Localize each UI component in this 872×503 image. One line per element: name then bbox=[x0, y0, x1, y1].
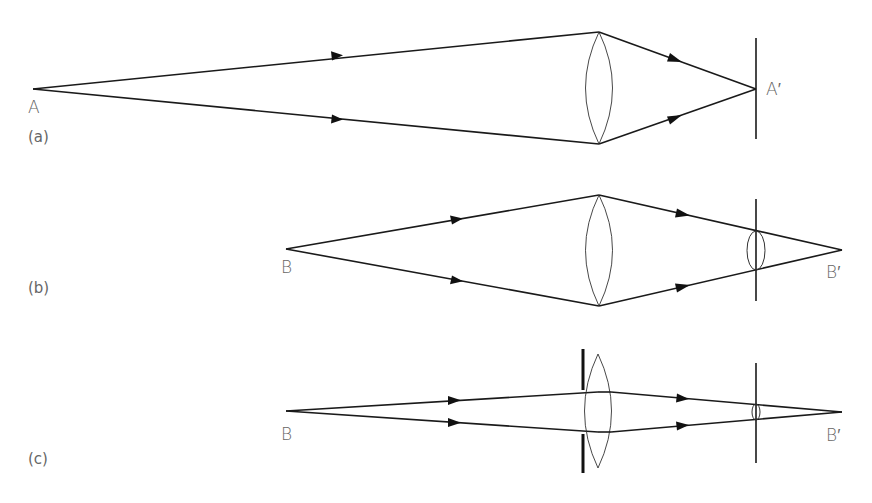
panel-label-a: (a) bbox=[28, 128, 49, 146]
converging-lens-c bbox=[585, 354, 612, 468]
ray-b-upper-refracted bbox=[599, 195, 842, 250]
panel-label-b: (b) bbox=[28, 279, 49, 297]
arrow-icon bbox=[675, 284, 690, 293]
converging-lens-b bbox=[586, 195, 613, 306]
panel-c: B B′ (c) bbox=[28, 349, 842, 473]
ray-c-upper-refracted bbox=[611, 392, 842, 412]
arrow-icon bbox=[667, 115, 682, 125]
label-image-A-prime: A′ bbox=[766, 79, 781, 99]
ray-b-lower-refracted bbox=[599, 250, 842, 306]
ray-a-lower-incoming bbox=[33, 89, 599, 144]
label-object-B: B bbox=[281, 257, 292, 277]
panel-b: B B′ (b) bbox=[28, 195, 842, 306]
label-object-B-c: B bbox=[281, 424, 292, 444]
ray-a-upper-incoming bbox=[33, 32, 599, 89]
arrow-icon bbox=[450, 276, 463, 285]
arrow-icon bbox=[331, 115, 343, 124]
depth-of-field-diagram: A A′ (a) B B′ (b) B B′ bbox=[0, 0, 872, 503]
label-object-A: A bbox=[28, 97, 40, 117]
arrow-icon bbox=[675, 209, 690, 218]
ray-c-lower-incoming bbox=[286, 411, 598, 432]
arrow-icon bbox=[448, 418, 461, 427]
panel-label-c: (c) bbox=[28, 450, 48, 468]
panel-a: A A′ (a) bbox=[28, 32, 781, 146]
ray-c-upper-incoming bbox=[286, 392, 598, 411]
ray-b-upper-incoming bbox=[286, 195, 599, 249]
arrow-icon bbox=[448, 396, 461, 405]
ray-b-lower-incoming bbox=[286, 249, 599, 306]
converging-lens-a bbox=[586, 32, 613, 144]
ray-c-lower-refracted bbox=[611, 412, 842, 432]
arrow-icon bbox=[450, 216, 463, 225]
arrow-icon bbox=[667, 53, 682, 62]
label-image-B-prime: B′ bbox=[826, 262, 840, 282]
label-image-B-prime-c: B′ bbox=[826, 425, 840, 445]
